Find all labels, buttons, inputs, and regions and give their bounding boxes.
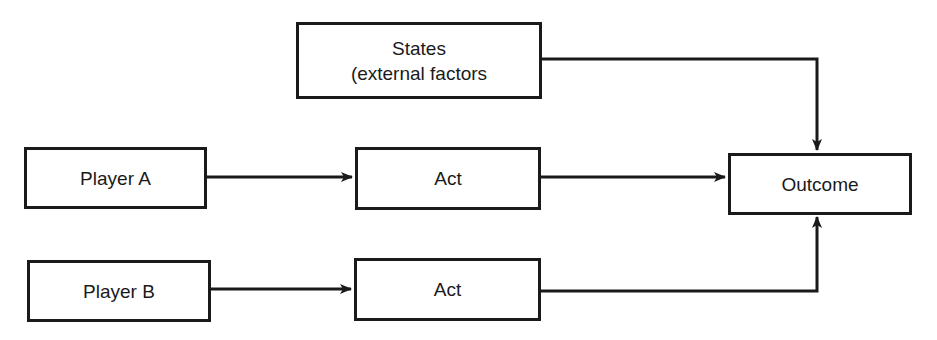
edge-act-b-to-outcome [540,217,817,291]
act-a-node: Act [355,147,541,210]
states-label-line1: States [392,36,446,61]
act-b-node: Act [354,258,541,321]
player-a-label: Player A [80,166,151,191]
edge-states-to-outcome [541,59,817,150]
player-a-node: Player A [24,147,207,209]
act-a-label: Act [434,166,461,191]
act-b-label: Act [434,277,461,302]
player-b-node: Player B [27,260,211,322]
outcome-label: Outcome [781,172,858,197]
outcome-node: Outcome [728,153,912,215]
player-b-label: Player B [83,279,155,304]
states-node: States (external factors [296,22,542,99]
states-label-line2: (external factors [351,61,487,86]
